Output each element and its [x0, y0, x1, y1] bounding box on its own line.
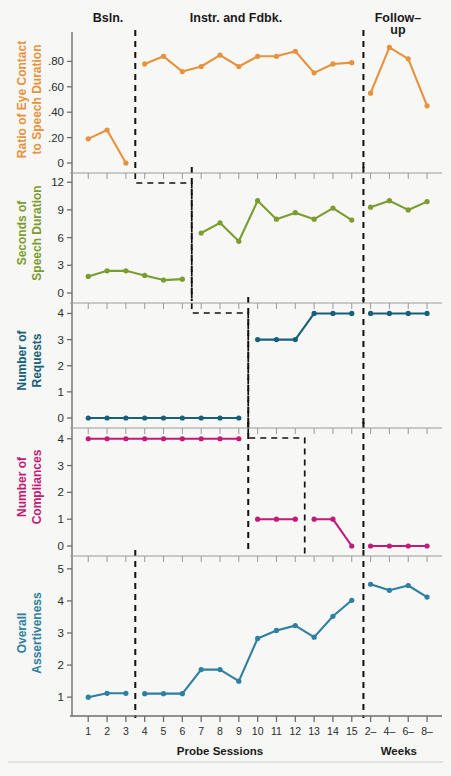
- y-tick-label-4-1: 1: [58, 513, 64, 525]
- data-point: [123, 436, 128, 441]
- data-point: [199, 230, 204, 235]
- data-point: [180, 69, 185, 74]
- y-tick-label-2-2: 6: [58, 232, 64, 244]
- y-tick-label-2-1: 3: [58, 259, 64, 271]
- y-tick-label-2-0: 0: [58, 287, 64, 299]
- data-point: [349, 60, 354, 65]
- data-point: [123, 268, 128, 273]
- x-tick-label-11: 12: [289, 725, 301, 737]
- phase-label-0: Bsln.: [93, 11, 124, 25]
- data-point: [424, 543, 429, 548]
- data-point: [349, 543, 354, 548]
- y-tick-label-1-3: .60: [48, 81, 64, 93]
- data-point: [217, 436, 222, 441]
- data-point: [424, 594, 429, 599]
- y-axis-label-4-line1: Number of: [15, 456, 29, 517]
- data-point: [274, 54, 279, 59]
- figure-container: Bsln.Instr. and Fdbk.Follow–up 0.20.40.6…: [0, 0, 451, 776]
- figure-background: [0, 0, 451, 776]
- data-point: [406, 311, 411, 316]
- data-point: [312, 311, 317, 316]
- y-tick-label-3-1: 1: [58, 386, 64, 398]
- data-point: [349, 217, 354, 222]
- y-tick-label-2-3: 9: [58, 204, 64, 216]
- data-point: [387, 543, 392, 548]
- data-point: [368, 582, 373, 587]
- x-tick-label-7: 8: [217, 725, 223, 737]
- data-point: [255, 198, 260, 203]
- x-axis-title: Probe Sessions: [177, 745, 263, 757]
- data-point: [236, 64, 241, 69]
- data-point: [86, 436, 91, 441]
- data-point: [161, 277, 166, 282]
- data-point: [368, 543, 373, 548]
- y-axis-label-4-line2: Compliances: [30, 449, 44, 524]
- data-point: [312, 517, 317, 522]
- data-point: [217, 52, 222, 57]
- data-point: [199, 436, 204, 441]
- data-point: [330, 517, 335, 522]
- data-point: [142, 691, 147, 696]
- data-point: [406, 56, 411, 61]
- x-tick-label-3: 4: [142, 725, 148, 737]
- y-tick-label-5-3: 4: [58, 595, 65, 607]
- data-point: [199, 64, 204, 69]
- data-point: [255, 337, 260, 342]
- data-point: [236, 415, 241, 420]
- x-tick-label-5: 6: [179, 725, 185, 737]
- data-point: [180, 691, 185, 696]
- data-point: [424, 103, 429, 108]
- data-point: [104, 268, 109, 273]
- y-tick-label-5-0: 1: [58, 691, 64, 703]
- data-point: [274, 337, 279, 342]
- data-point: [293, 517, 298, 522]
- data-point: [424, 199, 429, 204]
- data-point: [312, 217, 317, 222]
- x-tick-label-0: 1: [85, 725, 91, 737]
- data-point: [161, 54, 166, 59]
- data-point: [255, 54, 260, 59]
- data-point: [123, 691, 128, 696]
- data-point: [236, 239, 241, 244]
- data-point: [104, 436, 109, 441]
- x-tick-label-4: 5: [161, 725, 167, 737]
- data-point: [199, 415, 204, 420]
- data-point: [180, 277, 185, 282]
- y-tick-label-5-4: 5: [58, 563, 64, 575]
- data-point: [180, 436, 185, 441]
- data-point: [217, 667, 222, 672]
- data-point: [104, 127, 109, 132]
- data-point: [161, 436, 166, 441]
- data-point: [330, 311, 335, 316]
- y-axis-label-2-line2: Speech Duration: [30, 185, 44, 280]
- y-tick-label-1-2: .40: [48, 106, 64, 118]
- data-point: [424, 311, 429, 316]
- data-point: [217, 415, 222, 420]
- data-point: [86, 274, 91, 279]
- data-point: [274, 517, 279, 522]
- data-point: [406, 543, 411, 548]
- data-point: [368, 311, 373, 316]
- data-point: [217, 220, 222, 225]
- x-tick-label-10: 11: [271, 725, 282, 737]
- data-point: [199, 667, 204, 672]
- x-axis-title-weeks: Weeks: [381, 745, 417, 757]
- x-tick-label-13: 14: [327, 725, 339, 737]
- data-point: [330, 205, 335, 210]
- y-tick-label-4-3: 3: [58, 460, 64, 472]
- data-point: [312, 70, 317, 75]
- y-axis-label-1-line2: to Speech Duration: [30, 44, 44, 154]
- y-axis-label-1-line1: Ratio of Eye Contact: [15, 41, 29, 158]
- y-axis-label-3-line1: Number of: [15, 329, 29, 390]
- data-point: [86, 415, 91, 420]
- data-point: [161, 415, 166, 420]
- y-tick-label-4-4: 4: [58, 433, 65, 445]
- data-point: [142, 436, 147, 441]
- x-tick-label-14: 15: [346, 725, 358, 737]
- data-point: [104, 415, 109, 420]
- data-point: [349, 598, 354, 603]
- x-tick-label-16: 4–: [384, 725, 396, 737]
- x-tick-label-6: 7: [198, 725, 204, 737]
- data-point: [293, 337, 298, 342]
- x-tick-label-18: 8–: [421, 725, 433, 737]
